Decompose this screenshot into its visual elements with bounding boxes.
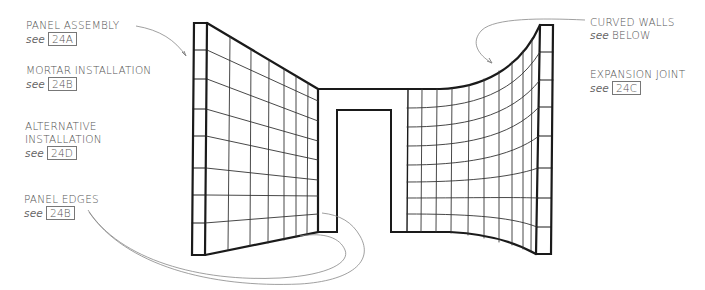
- right-curved-wall: [407, 25, 553, 254]
- doorway-wall: [318, 89, 408, 232]
- callout-expansion-joint: EXPANSION JOINT see24C: [590, 68, 685, 95]
- callout-title: PANEL ASSEMBLY: [26, 19, 119, 32]
- callout-alternative-installation: ALTERNATIVE INSTALLATION see24D: [25, 120, 102, 160]
- see-label: see: [26, 78, 45, 91]
- ref-text-below: BELOW: [612, 29, 651, 41]
- callout-mortar-installation: MORTAR INSTALLATION see24B: [26, 64, 151, 91]
- ref-badge-24b[interactable]: 24B: [46, 206, 75, 220]
- see-label: see: [26, 33, 45, 46]
- see-label: see: [25, 147, 44, 160]
- callout-title-line-1: ALTERNATIVE: [25, 120, 102, 133]
- diagram-canvas: PANEL ASSEMBLY see24A MORTAR INSTALLATIO…: [0, 0, 705, 290]
- callout-title: PANEL EDGES: [24, 193, 99, 206]
- ref-badge-24c[interactable]: 24C: [612, 81, 641, 95]
- callout-title: EXPANSION JOINT: [590, 68, 685, 81]
- see-label: see: [590, 29, 609, 42]
- callout-title: CURVED WALLS: [590, 16, 675, 29]
- callout-panel-assembly: PANEL ASSEMBLY see24A: [26, 19, 119, 46]
- ref-badge-24d[interactable]: 24D: [47, 146, 77, 160]
- ref-badge-24b[interactable]: 24B: [48, 77, 77, 91]
- ref-badge-24a[interactable]: 24A: [48, 32, 77, 46]
- left-wall: [192, 23, 318, 255]
- see-label: see: [590, 82, 609, 95]
- leader-panel-assembly: [136, 26, 186, 56]
- callout-curved-walls: CURVED WALLS seeBELOW: [590, 16, 675, 42]
- callout-title: MORTAR INSTALLATION: [26, 64, 151, 77]
- callout-title-line-2: INSTALLATION: [25, 133, 102, 146]
- callout-panel-edges: PANEL EDGES see24B: [24, 193, 99, 220]
- see-label: see: [24, 207, 43, 220]
